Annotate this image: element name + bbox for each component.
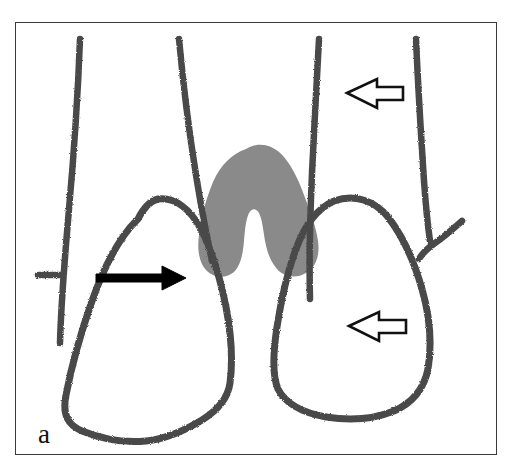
figure-frame-border: a bbox=[15, 22, 497, 455]
anatomical-diagram bbox=[16, 23, 497, 455]
panel-label: a bbox=[38, 421, 50, 448]
figure-root: a bbox=[0, 0, 514, 470]
diagram-canvas bbox=[16, 23, 497, 455]
